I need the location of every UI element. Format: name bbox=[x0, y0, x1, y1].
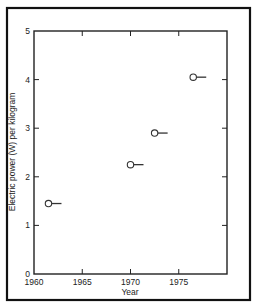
y-axis-label: Electric power (W) per kilogram bbox=[7, 93, 17, 212]
open-circle-marker-icon bbox=[190, 74, 196, 80]
x-tick-label: 1975 bbox=[169, 277, 188, 287]
data-points bbox=[45, 74, 206, 207]
open-circle-marker-icon bbox=[127, 161, 133, 167]
x-tick-label: 1965 bbox=[73, 277, 92, 287]
y-tick-label: 1 bbox=[25, 220, 30, 230]
data-point bbox=[45, 200, 61, 206]
data-point bbox=[151, 130, 167, 136]
x-axis-label: Year bbox=[121, 287, 138, 297]
y-tick-label: 5 bbox=[25, 26, 30, 36]
plot-area bbox=[34, 31, 227, 274]
y-tick-label: 2 bbox=[25, 172, 30, 182]
data-point bbox=[190, 74, 206, 80]
open-circle-marker-icon bbox=[45, 200, 51, 206]
scatter-chart: 0123451960196519701975 Year Electric pow… bbox=[0, 0, 257, 305]
axes: 0123451960196519701975 bbox=[25, 26, 227, 287]
x-tick-label: 1960 bbox=[25, 277, 44, 287]
chart-figure: 0123451960196519701975 Year Electric pow… bbox=[0, 0, 257, 305]
y-tick-label: 4 bbox=[25, 75, 30, 85]
outer-frame bbox=[7, 8, 250, 300]
data-point bbox=[127, 161, 143, 167]
x-tick-label: 1970 bbox=[121, 277, 140, 287]
y-tick-label: 3 bbox=[25, 123, 30, 133]
open-circle-marker-icon bbox=[151, 130, 157, 136]
